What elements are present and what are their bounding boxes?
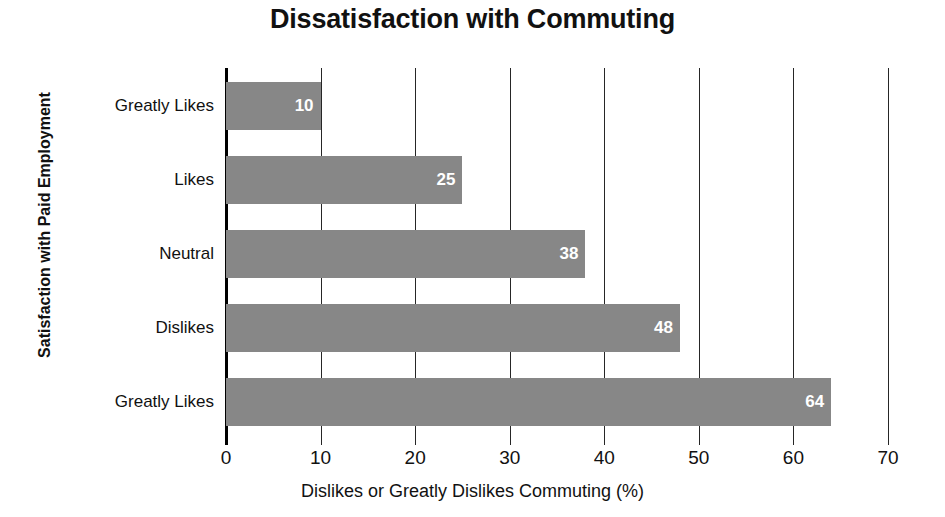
bar-value-label: 48 [654, 304, 673, 352]
bar-row: 10 [226, 82, 888, 130]
bar-row: 64 [226, 378, 888, 426]
x-axis-tick-label: 60 [763, 447, 823, 469]
x-axis-tick-label: 20 [385, 447, 445, 469]
bar-value-label: 25 [437, 156, 456, 204]
y-axis-tick-label: Greatly Likes [4, 82, 214, 130]
y-axis-tick-label: Neutral [4, 230, 214, 278]
bar-row: 48 [226, 304, 888, 352]
y-axis-tick-label: Dislikes [4, 304, 214, 352]
bar[interactable]: 64 [226, 378, 831, 426]
bar[interactable]: 25 [226, 156, 462, 204]
bar[interactable]: 38 [226, 230, 585, 278]
bar[interactable]: 10 [226, 82, 321, 130]
bar-chart: Dissatisfaction with Commuting Satisfact… [0, 0, 945, 517]
x-axis-title: Dislikes or Greatly Dislikes Commuting (… [0, 481, 945, 502]
y-axis-tick-label: Greatly Likes [4, 378, 214, 426]
bar-value-label: 64 [805, 378, 824, 426]
x-axis-tick-label: 0 [196, 447, 256, 469]
gridline-70 [888, 68, 889, 445]
bar-value-label: 10 [295, 82, 314, 130]
chart-title: Dissatisfaction with Commuting [0, 4, 945, 35]
x-axis-tick-label: 30 [480, 447, 540, 469]
x-axis-tick-label: 70 [858, 447, 918, 469]
plot-area: 1025384864 [226, 68, 888, 437]
x-axis-tick-label: 10 [291, 447, 351, 469]
bar[interactable]: 48 [226, 304, 680, 352]
bar-value-label: 38 [559, 230, 578, 278]
y-axis-tick-label: Likes [4, 156, 214, 204]
bar-row: 38 [226, 230, 888, 278]
bar-row: 25 [226, 156, 888, 204]
x-axis-tick-label: 40 [574, 447, 634, 469]
x-axis-tick-label: 50 [669, 447, 729, 469]
